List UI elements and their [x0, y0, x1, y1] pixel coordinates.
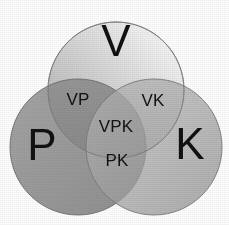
venn-diagram: V P K VP VK PK VPK	[0, 0, 229, 225]
venn-circles-canvas	[0, 0, 229, 225]
venn-circle-K	[86, 79, 222, 215]
